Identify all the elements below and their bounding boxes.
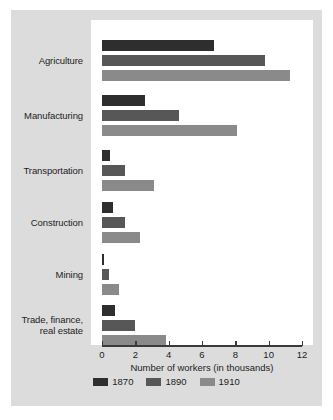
bar	[102, 202, 113, 213]
category-label-line: Mining	[11, 269, 83, 280]
x-axis-tick-label: 6	[199, 349, 204, 360]
legend-swatch	[146, 378, 161, 386]
bar-group	[91, 150, 313, 191]
bar	[102, 40, 214, 51]
plot-area	[91, 20, 313, 345]
legend-label: 1910	[219, 376, 240, 387]
bar-group	[91, 202, 313, 243]
x-axis-tick	[302, 341, 303, 346]
bar-chart-figure: AgricultureManufacturingTransportationCo…	[11, 10, 322, 406]
category-label-line: Transportation	[11, 165, 83, 176]
x-axis-tick-label: 0	[99, 349, 104, 360]
category-label-line: Trade, finance,	[11, 314, 83, 325]
x-axis-tick	[269, 341, 270, 346]
bar-group	[91, 254, 313, 295]
x-axis-title: Number of workers (in thousands)	[91, 362, 313, 373]
bar	[102, 320, 135, 331]
x-axis-tick	[135, 341, 136, 346]
bar	[102, 217, 125, 228]
category-label: Transportation	[11, 165, 83, 176]
bar-group	[91, 95, 313, 136]
legend-swatch	[93, 378, 108, 386]
bar	[102, 125, 237, 136]
bar	[102, 55, 265, 66]
legend-label: 1890	[165, 376, 186, 387]
legend-item: 1910	[200, 376, 240, 387]
bar	[102, 110, 179, 121]
chart-legend: 187018901910	[11, 376, 322, 387]
bar-group	[91, 305, 313, 346]
bar	[102, 284, 119, 295]
bar	[102, 150, 110, 161]
bar	[102, 180, 154, 191]
bars-layer	[91, 20, 313, 345]
x-axis: Number of workers (in thousands) 0246810…	[91, 345, 313, 375]
x-axis-tick-label: 8	[233, 349, 238, 360]
bar	[102, 254, 104, 265]
x-axis-tick-label: 2	[133, 349, 138, 360]
bar	[102, 305, 115, 316]
x-axis-tick	[235, 341, 236, 346]
x-axis-tick-label: 12	[297, 349, 308, 360]
bar	[102, 165, 125, 176]
bar	[102, 95, 145, 106]
category-label: Agriculture	[11, 55, 83, 66]
x-axis-tick-label: 10	[263, 349, 274, 360]
x-axis-tick	[202, 341, 203, 346]
legend-label: 1870	[112, 376, 133, 387]
legend-item: 1870	[93, 376, 133, 387]
bar-group	[91, 40, 313, 81]
category-label: Manufacturing	[11, 110, 83, 121]
category-label-line: real estate	[11, 325, 83, 336]
category-label: Trade, finance,real estate	[11, 314, 83, 336]
category-label-line: Manufacturing	[11, 110, 83, 121]
bar	[102, 232, 140, 243]
category-label: Mining	[11, 269, 83, 280]
bar	[102, 70, 290, 81]
legend-swatch	[200, 378, 215, 386]
bar	[102, 269, 109, 280]
category-label-line: Construction	[11, 217, 83, 228]
legend-item: 1890	[146, 376, 186, 387]
category-label: Construction	[11, 217, 83, 228]
category-label-line: Agriculture	[11, 55, 83, 66]
y-axis-category-labels: AgricultureManufacturingTransportationCo…	[11, 20, 86, 345]
x-axis-tick	[169, 341, 170, 346]
x-axis-tick	[102, 341, 103, 346]
x-axis-tick-label: 4	[166, 349, 171, 360]
